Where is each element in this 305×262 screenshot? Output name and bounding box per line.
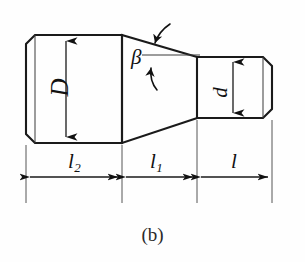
label-major-diameter: D xyxy=(47,78,72,96)
label-length-l2-base: l xyxy=(68,149,74,173)
large-section-outline xyxy=(26,35,122,143)
label-length-l2-subscript: 2 xyxy=(74,160,81,175)
label-taper-angle: β xyxy=(131,47,141,68)
figure-caption: (b) xyxy=(0,224,305,246)
label-length-l1-base: l xyxy=(150,149,156,173)
angle-beta-annotation xyxy=(142,24,200,90)
drawing-canvas xyxy=(0,0,305,262)
label-length-l: l xyxy=(231,151,237,172)
label-length-l1-subscript: 1 xyxy=(156,160,163,175)
label-length-l1: l1 xyxy=(150,151,163,174)
technical-drawing-figure: D d β l2 l1 l (b) xyxy=(0,0,305,262)
label-minor-diameter: d xyxy=(210,87,231,98)
label-length-l2: l2 xyxy=(68,151,81,174)
